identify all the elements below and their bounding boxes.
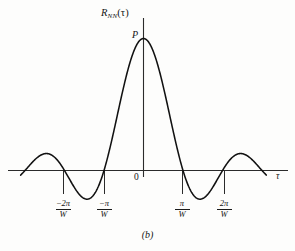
tick-label-2pi-over-w: 2π W [200,199,248,219]
y-axis-title: RNN(τ) [101,8,129,20]
tick-numerator: 2π [200,199,248,209]
tick-denominator: W [200,210,248,220]
x-axis-title: τ [276,172,279,182]
y-axis-title-argument: (τ) [117,7,129,18]
peak-amplitude-label: P [132,30,138,40]
origin-label: 0 [134,173,139,183]
tick-label-minus-pi-over-w: −π W [80,199,128,219]
subfigure-caption: (b) [0,229,295,240]
tick-numerator: π [158,199,206,209]
tick-denominator: W [80,210,128,220]
tick-numerator: −π [80,199,128,209]
figure-container: RNN(τ) P 0 τ −2π W −π W π W 2π W (b) [0,0,295,251]
tick-label-pi-over-w: π W [158,199,206,219]
y-axis-title-subscript: NN [108,12,118,20]
tick-denominator: W [158,210,206,220]
